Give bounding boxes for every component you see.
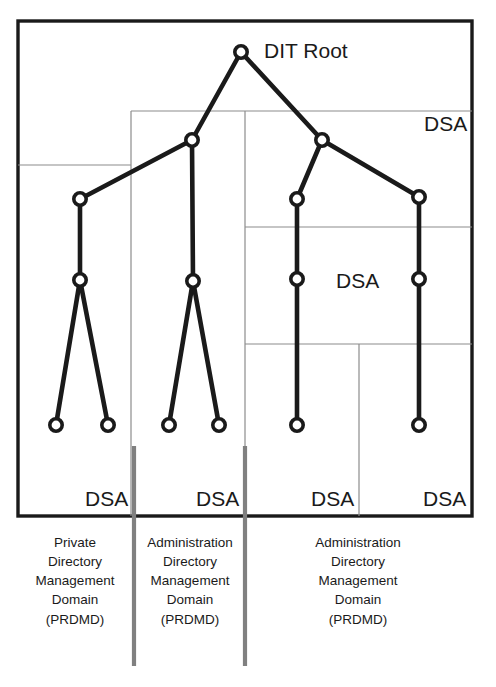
tree-nodes [50, 46, 425, 431]
dmd-caption-3-text: Administration Directory Management Doma… [315, 535, 401, 627]
node-b-level3 [291, 193, 303, 205]
dsa-label-bottom-1: DSA [85, 488, 128, 509]
dmd-caption-3: Administration Directory Management Doma… [288, 533, 428, 629]
dsa-label-top-right: DSA [424, 113, 467, 134]
node-c-level4 [291, 273, 303, 285]
dmd-caption-2: Administration Directory Management Doma… [137, 533, 243, 629]
edge-a4-to-leaf2 [80, 280, 108, 425]
dmd-caption-1-text: Private Directory Management Domain (PRD… [36, 535, 115, 627]
node-leaf-5 [291, 419, 303, 431]
node-dit-root [235, 46, 247, 58]
tree-edges [56, 52, 419, 425]
node-leaf-3 [163, 419, 175, 431]
dit-root-label: DIT Root [264, 40, 348, 61]
dsa-label-bottom-3: DSA [311, 488, 354, 509]
edge-right2-to-c3 [322, 140, 419, 197]
dsa-label-bottom-2: DSA [196, 488, 239, 509]
node-c-level3 [413, 191, 425, 203]
edge-a4-to-leaf1 [56, 280, 80, 425]
edge-b4-to-leaf3 [169, 281, 193, 425]
edge-b4-to-leaf4 [193, 281, 219, 425]
node-a-level3 [74, 193, 86, 205]
node-left-level2 [186, 134, 198, 146]
dmd-caption-2-text: Administration Directory Management Doma… [147, 535, 233, 627]
node-leaf-6 [413, 419, 425, 431]
node-leaf-2 [102, 419, 114, 431]
edge-left2-to-a3 [80, 140, 192, 199]
diagram-canvas: DIT Root DSA DSA DSA DSA DSA DSA Private… [0, 0, 496, 687]
node-d-level4 [413, 273, 425, 285]
dmd-caption-1: Private Directory Management Domain (PRD… [20, 533, 130, 629]
edge-root-to-left2 [192, 52, 241, 140]
dsa-label-bottom-4: DSA [423, 488, 466, 509]
edge-root-to-right2 [241, 52, 322, 140]
edge-right2-to-b3 [297, 140, 322, 199]
node-a-level4 [74, 274, 86, 286]
node-leaf-1 [50, 419, 62, 431]
edge-left2-to-b4 [192, 140, 193, 281]
node-b-level4 [187, 275, 199, 287]
dsa-label-middle-right: DSA [336, 270, 379, 291]
node-leaf-4 [213, 419, 225, 431]
node-right-level2 [316, 134, 328, 146]
